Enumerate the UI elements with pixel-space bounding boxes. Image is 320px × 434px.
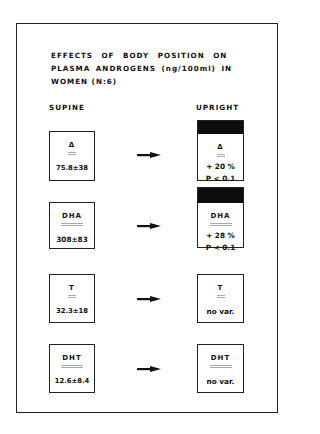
title-line-3: WOMEN (N:6)	[51, 75, 261, 88]
upright-change: + 20 %	[198, 162, 243, 171]
supine-value: 12.6±8.4	[50, 377, 94, 385]
right-arrow-icon	[137, 366, 161, 372]
highlight-bar	[198, 188, 243, 203]
double-underline	[217, 154, 225, 157]
upright-box-dht: DHT no var.	[197, 344, 244, 393]
right-arrow-icon	[137, 152, 161, 158]
upright-change: no var.	[198, 377, 243, 386]
figure-title: EFFECTS OF BODY POSITION ON PLASMA ANDRO…	[51, 49, 261, 88]
hormone-label: Δ	[217, 143, 223, 151]
double-underline	[68, 295, 76, 298]
upright-change: + 28 %	[198, 231, 243, 240]
title-line-2: PLASMA ANDROGENS (ng/100ml) IN	[51, 62, 261, 75]
upright-p-value: P < 0.1	[198, 243, 243, 252]
upright-box-dha: DHA + 28 % P < 0.1	[197, 187, 244, 248]
right-arrow-icon	[137, 296, 161, 302]
hormone-label: T	[69, 284, 75, 292]
hormone-label: Δ	[69, 141, 75, 149]
double-underline	[210, 365, 232, 368]
double-underline	[68, 152, 76, 155]
supine-value: 32.3±18	[50, 307, 94, 315]
supine-value: 308±83	[50, 235, 94, 244]
upright-box-t: T no var.	[197, 274, 244, 323]
supine-box-t: T 32.3±18	[49, 274, 95, 323]
upright-p-value: P < 0.1	[198, 174, 243, 183]
hormone-label: T	[218, 284, 224, 292]
upright-box-delta: Δ + 20 % P < 0.1	[197, 120, 244, 181]
supine-box-dht: DHT 12.6±8.4	[49, 344, 95, 393]
column-header-supine: SUPINE	[49, 103, 85, 112]
upright-change: no var.	[198, 307, 243, 316]
double-underline	[210, 223, 232, 226]
highlight-bar	[198, 121, 243, 134]
hormone-label: DHA	[210, 212, 230, 220]
double-underline	[217, 295, 225, 298]
hormone-label: DHT	[211, 354, 230, 362]
title-line-1: EFFECTS OF BODY POSITION ON	[51, 49, 261, 62]
supine-value: 75.8±38	[50, 164, 94, 172]
hormone-label: DHT	[62, 354, 81, 362]
supine-box-dha: DHA 308±83	[49, 202, 95, 249]
double-underline	[61, 365, 83, 368]
right-arrow-icon	[137, 223, 161, 229]
supine-box-delta: Δ 75.8±38	[49, 131, 95, 181]
double-underline	[61, 223, 83, 226]
column-header-upright: UPRIGHT	[196, 103, 239, 112]
hormone-label: DHA	[62, 212, 82, 220]
